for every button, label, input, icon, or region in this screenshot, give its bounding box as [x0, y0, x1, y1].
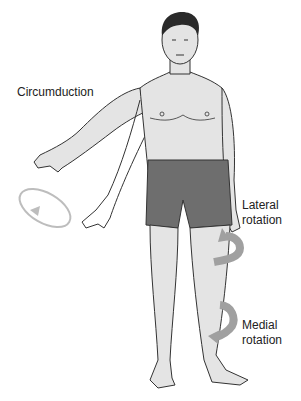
circumduction-arrow-icon [13, 181, 76, 235]
raised-arm [34, 88, 145, 172]
shorts [146, 160, 232, 228]
lateral-rotation-label-line1: Lateral [242, 198, 279, 212]
torso [140, 72, 230, 170]
legs [150, 225, 248, 388]
lateral-rotation-label-line2: rotation [242, 213, 282, 227]
medial-rotation-label-line1: Medial [242, 318, 277, 332]
medial-rotation-label-line2: rotation [242, 333, 282, 347]
head [162, 12, 199, 74]
circumduction-label: Circumduction [17, 85, 94, 99]
